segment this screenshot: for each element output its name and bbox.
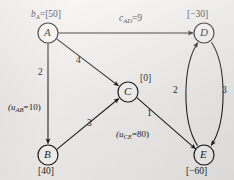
cost-value: =9 <box>132 13 142 23</box>
node-D-supply-annotation: [−30] <box>187 10 208 20</box>
edge-E-D <box>186 43 198 146</box>
node-B-label: B <box>44 149 51 160</box>
node-A-label: A <box>44 27 51 38</box>
edge-A-D-cost-label: cAD=9 <box>119 14 142 24</box>
capacity-value: =10) <box>24 102 41 112</box>
cost-subscript: AD <box>123 17 132 24</box>
capacity-symbol: (u <box>8 102 16 112</box>
capacity-symbol: (u <box>116 129 124 139</box>
node-B-supply-annotation: [40] <box>38 167 54 177</box>
edge-A-B-cost-label: 2 <box>38 68 43 78</box>
figure-canvas: A B C D E bA=[50] [40] [0] [−30] [−60] c… <box>0 0 234 180</box>
node-D-label: D <box>200 27 208 38</box>
node-E-label: E <box>200 149 207 160</box>
edge-D-E-cost-label: 3 <box>222 86 227 96</box>
edge-C-E-capacity-label: (uCE=80) <box>116 130 149 139</box>
node-A-supply-annotation: bA=[50] <box>31 10 61 20</box>
edge-A-B-capacity-label: (uAB=10) <box>8 103 41 112</box>
capacity-subscript: AB <box>16 106 24 113</box>
node-E-supply-annotation: [−60] <box>186 167 207 177</box>
edge-A-C-cost-label: 4 <box>76 56 81 66</box>
capacity-value: =80) <box>132 129 149 139</box>
edge-E-D-cost-label: 2 <box>173 86 178 96</box>
node-C-supply-annotation: [0] <box>140 74 151 84</box>
edge-C-E-cost-label: 1 <box>147 109 152 119</box>
network-graph <box>0 0 234 180</box>
supply-subscript: A <box>36 13 40 20</box>
edge-B-C-cost-label: 3 <box>87 119 92 129</box>
node-A-supply-value: [50] <box>45 9 61 19</box>
edge-A-C <box>56 39 118 86</box>
node-C-label: C <box>124 86 131 97</box>
capacity-subscript: CE <box>124 133 132 140</box>
